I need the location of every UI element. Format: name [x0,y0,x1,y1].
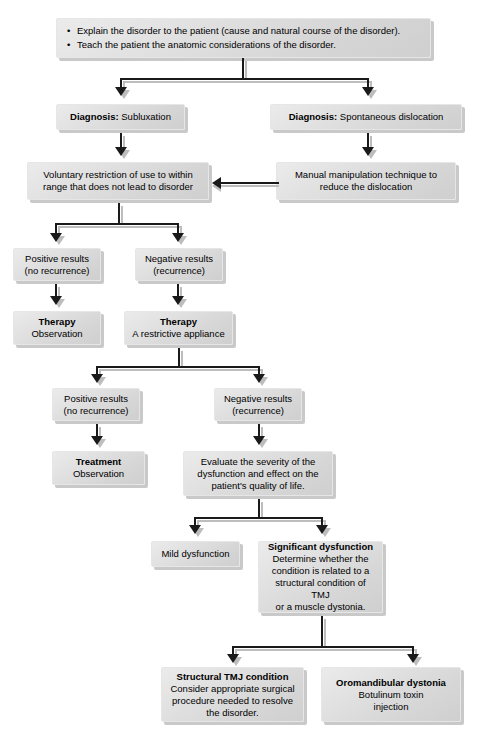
arrow-to-treatment-observation [91,436,103,445]
treatment-observation-title: Treatment [76,456,121,468]
connector-significant-stem [321,616,323,646]
node-therapy-restrictive-appliance: Therapy A restrictive appliance [124,311,233,345]
node-diagnosis-subluxation: Diagnosis: Subluxation [56,104,185,130]
arrow-to-diagnosis-subluxation [115,87,127,96]
structural-tmj-title: Structural TMJ condition [177,671,289,683]
arrow-to-positive-results-2 [91,374,103,383]
connector-evaluate-stem [258,499,260,517]
arrow-to-structural-tmj [227,654,239,663]
arrow-to-voluntary-restriction [115,147,127,156]
connector-restriction-bus [55,223,179,225]
connector-shadow-evaluate-bus [197,520,326,522]
positive-results-1-line-2: (no recurrence) [25,265,90,277]
node-diagnosis-spontaneous-dislocation: Diagnosis: Spontaneous dislocation [270,104,462,130]
structural-tmj-line-2: procedure needed to resolve [172,695,293,707]
therapy-appliance-title: Therapy [160,316,197,328]
node-negative-results-2: Negative results (recurrence) [214,388,302,421]
oromandibular-dystonia-line-1: Botulinum toxin [359,689,424,701]
manual-manipulation-line-2: reduce the dislocation [320,181,412,193]
manual-manipulation-line-1: Manual manipulation technique to [295,169,437,181]
arrow-to-mild-dysfunction [189,525,201,534]
diagnosis-spontaneous-value: Spontaneous dislocation [340,111,444,122]
connector-shadow-education-stem [245,61,247,79]
arrow-to-diagnosis-spontaneous [362,87,374,96]
significant-dysfunction-line-4: or a muscle dystonia. [276,601,366,613]
patient-education-bullet-list: Explain the disorder to the patient (cau… [67,24,420,52]
therapy-observation-title: Therapy [39,316,76,328]
oromandibular-dystonia-line-2: injection [374,701,409,713]
arrow-to-negative-results-2 [253,374,265,383]
connector-education-stem [242,58,244,78]
arrow-to-negative-results-1 [172,233,184,242]
significant-dysfunction-line-1: Determine whether the [272,553,368,565]
diagnosis-spontaneous-text: Diagnosis: Spontaneous dislocation [289,111,444,123]
connector-spontaneous-down [367,133,369,148]
node-treatment-observation: Treatment Observation [52,451,145,485]
evaluate-severity-line-3: patient's quality of life. [211,480,304,492]
arrow-to-oromandibular-dystonia [407,654,419,663]
flowchart-canvas: Explain the disorder to the patient (cau… [0,0,485,739]
diagnosis-spontaneous-label: Diagnosis: [289,111,338,122]
arrow-to-voluntary-restriction-left [212,177,221,189]
connector-shadow-manipulation-to-restriction [221,185,279,187]
node-manual-manipulation: Manual manipulation technique to reduce … [276,162,456,200]
positive-results-2-line-1: Positive results [64,393,128,405]
arrow-to-manual-manipulation [362,147,374,156]
diagnosis-subluxation-label: Diagnosis: [70,111,119,122]
evaluate-severity-line-2: dysfunction and effect on the [197,468,318,480]
negative-results-2-line-1: Negative results [224,393,292,405]
negative-results-2-line-2: (recurrence) [232,405,284,417]
structural-tmj-line-3: the disorder. [206,707,258,719]
significant-dysfunction-title: Significant dysfunction [268,541,373,553]
positive-results-1-line-1: Positive results [25,253,89,265]
connector-appliance-bus [96,366,260,368]
arrow-to-therapy-appliance [172,296,184,305]
arrow-to-significant-dysfunction [316,525,328,534]
connector-shadow-appliance-stem [181,351,183,367]
connector-subluxation-down [120,133,122,148]
node-evaluate-severity: Evaluate the severity of the dysfunction… [183,451,333,496]
voluntary-restriction-line-2: range that does not lead to disorder [43,181,193,193]
connector-significant-bus [232,646,414,648]
connector-restriction-stem [118,203,120,223]
connector-shadow-appliance-bus [99,369,263,371]
node-positive-results-2: Positive results (no recurrence) [52,388,140,421]
node-therapy-observation: Therapy Observation [13,311,101,345]
positive-results-2-line-2: (no recurrence) [64,405,129,417]
arrow-to-therapy-observation [50,296,62,305]
connector-evaluate-bus [194,517,323,519]
therapy-appliance-line-1: A restrictive appliance [132,328,224,340]
connector-shadow-significant-bus [235,649,417,651]
node-structural-tmj-condition: Structural TMJ condition Consider approp… [161,667,304,722]
significant-dysfunction-line-3: structural condition of TMJ [265,577,376,601]
connector-appliance-stem [178,348,180,366]
node-mild-dysfunction: Mild dysfunction [151,541,240,567]
voluntary-restriction-line-1: Voluntary restriction of use to within [43,169,192,181]
mild-dysfunction-line-1: Mild dysfunction [161,548,229,560]
significant-dysfunction-line-2: condition is related to a [272,565,370,577]
node-significant-dysfunction: Significant dysfunction Determine whethe… [258,541,383,613]
connector-education-bus [120,78,369,80]
patient-education-bullet-2: Teach the patient the anatomic considera… [67,38,420,52]
structural-tmj-line-1: Consider appropriate surgical [170,683,294,695]
evaluate-severity-line-1: Evaluate the severity of the [201,456,316,468]
node-patient-education: Explain the disorder to the patient (cau… [56,18,431,58]
arrow-to-positive-results-1 [50,233,62,242]
diagnosis-subluxation-value: Subluxation [121,111,171,122]
connector-shadow-significant-stem [324,619,326,647]
arrow-to-evaluate-severity [253,436,265,445]
diagnosis-subluxation-text: Diagnosis: Subluxation [70,111,171,123]
node-oromandibular-dystonia: Oromandibular dystonia Botulinum toxin i… [321,667,461,722]
therapy-observation-line-1: Observation [31,328,82,340]
node-negative-results-1: Negative results (recurrence) [135,248,223,281]
oromandibular-dystonia-title: Oromandibular dystonia [336,677,446,689]
negative-results-1-line-1: Negative results [145,253,213,265]
treatment-observation-line-1: Observation [73,468,124,480]
connector-shadow-restriction-bus [58,226,182,228]
connector-manipulation-to-restriction [221,182,279,184]
negative-results-1-line-2: (recurrence) [153,265,205,277]
connector-shadow-education-bus [123,81,372,83]
patient-education-bullet-1: Explain the disorder to the patient (cau… [67,24,420,38]
connector-shadow-restriction-stem [121,206,123,224]
node-positive-results-1: Positive results (no recurrence) [13,248,101,281]
